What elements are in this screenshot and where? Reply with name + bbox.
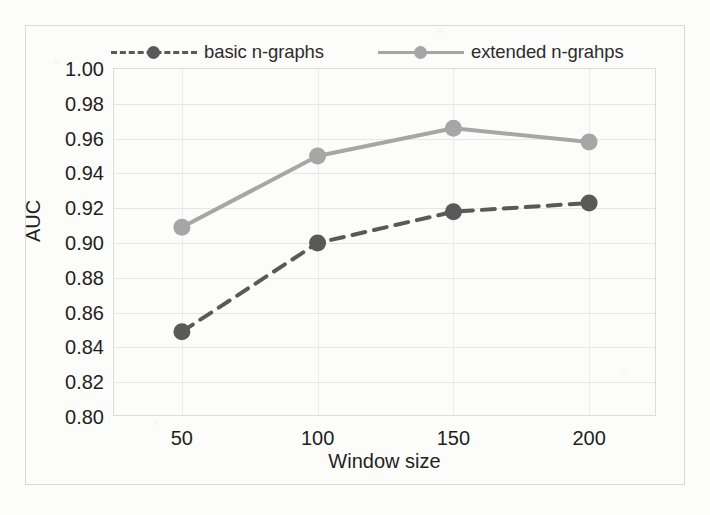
legend-marker-circle xyxy=(414,46,427,59)
chart-frame: basic n-graphs extended n-grahps 1.000.9… xyxy=(25,25,685,485)
data-point-marker xyxy=(309,148,326,165)
data-point-marker xyxy=(581,134,598,151)
series-plot-layer xyxy=(114,69,657,417)
legend-entry-extended-n-grahps: extended n-grahps xyxy=(378,41,624,63)
y-axis-tick-label: 0.92 xyxy=(65,197,104,220)
data-point-marker xyxy=(309,235,326,252)
plot-area: 1.000.980.960.940.920.900.880.860.840.82… xyxy=(113,68,656,416)
x-axis-tick-label: 150 xyxy=(437,427,470,450)
y-axis-tick-label: 0.82 xyxy=(65,371,104,394)
y-axis-tick-label: 0.84 xyxy=(65,336,104,359)
y-axis-tick-label: 0.88 xyxy=(65,266,104,289)
data-point-marker xyxy=(445,203,462,220)
series-line-extended-n-grahps xyxy=(182,128,589,227)
legend-label-basic-n-graphs: basic n-graphs xyxy=(204,41,324,63)
y-axis-tick-label: 0.90 xyxy=(65,232,104,255)
y-axis-tick-label: 0.80 xyxy=(65,406,104,429)
y-axis-tick-label: 0.94 xyxy=(65,162,104,185)
chart-figure: basic n-graphs extended n-grahps 1.000.9… xyxy=(0,0,710,515)
x-axis-tick-label: 50 xyxy=(171,427,193,450)
series-line-basic-n-graphs xyxy=(182,203,589,332)
legend-swatch-basic-n-graphs xyxy=(111,45,197,59)
x-axis-tick-label: 200 xyxy=(572,427,605,450)
data-point-marker xyxy=(581,195,598,212)
x-axis-title: Window size xyxy=(113,450,656,473)
y-axis-tick-label: 0.86 xyxy=(65,301,104,324)
y-axis-tick-label: 1.00 xyxy=(65,58,104,81)
data-point-marker xyxy=(173,219,190,236)
y-axis-tick-label: 0.96 xyxy=(65,127,104,150)
y-axis-tick-label: 0.98 xyxy=(65,92,104,115)
chart-legend: basic n-graphs extended n-grahps xyxy=(111,38,611,66)
legend-entry-basic-n-graphs: basic n-graphs xyxy=(111,41,324,63)
data-point-marker xyxy=(445,120,462,137)
legend-swatch-extended-n-grahps xyxy=(378,45,464,59)
x-axis-tick-label: 100 xyxy=(301,427,334,450)
legend-marker-circle xyxy=(147,46,160,59)
data-point-marker xyxy=(173,323,190,340)
y-axis-title: AUC xyxy=(22,200,45,242)
legend-label-extended-n-grahps: extended n-grahps xyxy=(471,41,624,63)
